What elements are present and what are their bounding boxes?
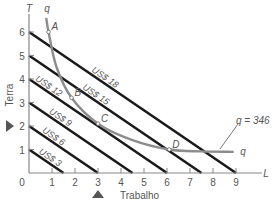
y-tick-label: 4 (19, 74, 25, 85)
y-axis-symbol: T (26, 3, 33, 14)
y-tick-label: 2 (19, 121, 25, 132)
labels: US$ 3US$ 6US$ 9US$ 12US$ 15US$ 18TLTraba… (4, 3, 270, 201)
point-marker (47, 30, 51, 34)
point-marker (168, 148, 172, 152)
point-marker (70, 96, 74, 100)
x-tick-label: 9 (233, 177, 239, 188)
isoquant-start-label: q (44, 3, 50, 14)
x-tick-label: 4 (118, 177, 124, 188)
annotation-leader (220, 124, 238, 149)
triangle-right-marker-icon (6, 120, 14, 132)
isoquant-end-label: q (240, 146, 246, 157)
y-tick-label: 1 (19, 145, 25, 156)
x-tick-label: 0 (19, 177, 25, 188)
x-axis-symbol: L (263, 168, 269, 179)
x-tick-label: 6 (164, 177, 170, 188)
y-tick-label: 3 (19, 98, 25, 109)
y-axis-title: Terra (4, 83, 15, 106)
point-label: B (75, 87, 82, 98)
isoquant-annotation: q = 346 (236, 115, 270, 126)
y-tick-label: 5 (19, 51, 25, 62)
point-label: A (51, 21, 59, 32)
x-tick-label: 3 (95, 177, 101, 188)
triangle-up-marker-icon (92, 190, 104, 198)
x-tick-label: 5 (141, 177, 147, 188)
x-tick-label: 2 (72, 177, 78, 188)
point-label: D (172, 139, 179, 150)
point-label: C (101, 113, 109, 124)
x-tick-label: 8 (210, 177, 216, 188)
x-tick-label: 7 (187, 177, 193, 188)
isoquant-isocost-chart: 0123456789123456 US$ 3US$ 6US$ 9US$ 12US… (0, 0, 276, 204)
x-axis-title: Trabalho (120, 190, 160, 201)
y-tick-label: 6 (19, 27, 25, 38)
point-marker (96, 122, 100, 126)
x-tick-label: 1 (49, 177, 55, 188)
